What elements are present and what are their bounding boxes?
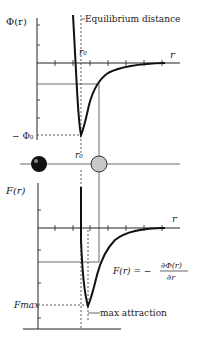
potential-plot: Φ(r) r r₀ − Φ₀ Equilibrium distance xyxy=(6,14,180,155)
force-equation-denominator: ∂r xyxy=(167,273,176,282)
force-equation-numerator: ∂Φ(r) xyxy=(161,261,182,270)
left-atom xyxy=(31,156,47,172)
potential-r0-label: r₀ xyxy=(79,47,87,57)
fmax-label: Fmax xyxy=(13,300,39,310)
potential-curve xyxy=(73,15,165,135)
interatomic-potential-diagram: Φ(r) r r₀ − Φ₀ Equilibrium distance r₀ xyxy=(0,0,198,349)
atoms-row: r₀ xyxy=(20,84,180,262)
equilibrium-distance-label: Equilibrium distance xyxy=(85,14,180,24)
force-equation-lhs: F(r) = − xyxy=(112,266,151,276)
force-plot: F(r) r Fmax max attraction F(r) = − ∂Φ(r… xyxy=(5,170,188,329)
atoms-r0-label: r₀ xyxy=(75,150,83,160)
force-y-label: F(r) xyxy=(5,185,26,196)
potential-y-label: Φ(r) xyxy=(6,16,27,27)
force-curve xyxy=(81,187,165,306)
potential-r-label: r xyxy=(170,49,176,60)
force-r-label: r xyxy=(172,213,178,224)
phi0-label: − Φ₀ xyxy=(12,131,34,141)
max-attraction-label: max attraction xyxy=(100,308,167,318)
right-atom xyxy=(91,156,107,172)
